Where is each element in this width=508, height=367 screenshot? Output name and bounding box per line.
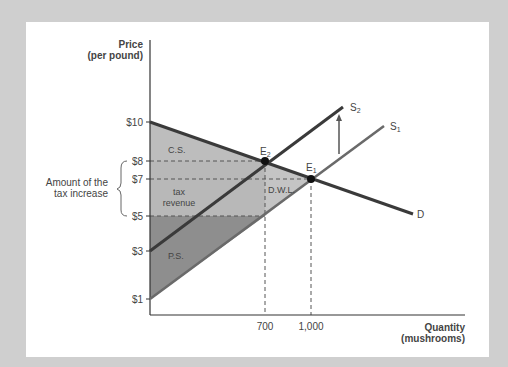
y-tick-5: $5 <box>132 211 144 222</box>
tax-increase-label-2: tax increase <box>54 188 108 199</box>
y-axis-title: Price <box>119 39 144 50</box>
y-axis-subtitle: (per pound) <box>87 50 143 61</box>
dwl-label: D.W.L. <box>268 185 295 195</box>
y-tick-10: $10 <box>126 117 143 128</box>
ps-label: P.S. <box>168 251 184 261</box>
x-axis-subtitle: (mushrooms) <box>401 333 465 344</box>
x-tick-700: 700 <box>257 321 274 332</box>
x-tick-1000: 1,000 <box>298 321 323 332</box>
y-tick-3: $3 <box>132 246 144 257</box>
y-tick-8: $8 <box>132 156 144 167</box>
y-tick-7: $7 <box>132 174 144 185</box>
d-label: D <box>417 209 424 220</box>
e1-label: E1 <box>306 162 317 174</box>
e2-label: E2 <box>260 146 271 158</box>
equilibrium-e1 <box>307 175 315 183</box>
tax-bracket <box>117 161 127 216</box>
cs-label: C.S. <box>168 145 186 155</box>
s2-label: S2 <box>350 102 361 114</box>
tax-increase-label-1: Amount of the <box>46 177 109 188</box>
equilibrium-e2 <box>261 157 269 165</box>
tax-diagram: Price (per pound) Quantity (mushrooms) $… <box>0 0 508 367</box>
x-axis-title: Quantity <box>424 322 465 333</box>
tax-label-2: revenue <box>163 198 196 208</box>
arrowhead-icon <box>336 114 342 121</box>
tax-label-1: tax <box>173 187 186 197</box>
s1-label: S1 <box>390 121 401 133</box>
y-tick-1: $1 <box>132 294 144 305</box>
